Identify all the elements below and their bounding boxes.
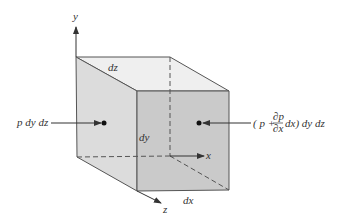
y-axis-label: y [72, 10, 78, 22]
right-force-label: ( p + ∂p ∂x dx) dy dz [253, 110, 325, 134]
left-force-label: p dy dz [16, 116, 49, 128]
svg-text:dx) dy dz: dx) dy dz [285, 117, 325, 130]
x-axis-label: x [205, 149, 211, 161]
z-axis-label: z [162, 203, 168, 215]
svg-text:∂x: ∂x [273, 122, 283, 134]
dy-label: dy [139, 131, 150, 143]
fluid-element-diagram: y x z dz dy dx p dy dz ( p + ∂p ∂x dx) d… [0, 0, 342, 219]
dx-label: dx [183, 194, 194, 206]
svg-text:( p +: ( p + [253, 117, 275, 130]
z-axis-arrow [137, 191, 161, 203]
svg-text:∂p: ∂p [273, 110, 284, 122]
left-force-point [102, 121, 107, 126]
right-force-point [197, 121, 202, 126]
dz-label: dz [108, 61, 119, 73]
front-face [137, 91, 229, 191]
